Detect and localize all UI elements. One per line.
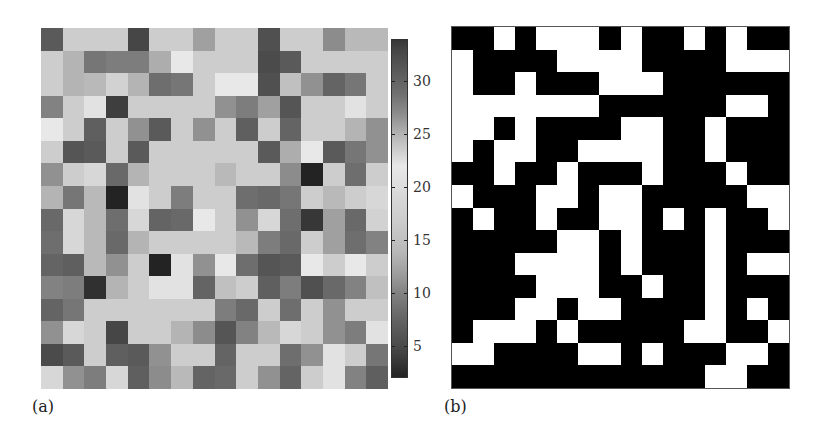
heatmap-cell	[280, 96, 302, 119]
heatmap-cell	[258, 276, 280, 299]
binary-cell	[578, 298, 599, 321]
binary-cell	[473, 72, 494, 95]
heatmap-cell	[63, 73, 85, 96]
heatmap-cell	[258, 344, 280, 367]
binary-cell	[642, 343, 663, 366]
heatmap-cell	[193, 344, 215, 367]
heatmap-cell	[171, 344, 193, 367]
binary-cell	[557, 298, 578, 321]
colorbar-tick-label: 30	[413, 74, 431, 88]
binary-cell	[705, 253, 726, 276]
binary-cell	[642, 320, 663, 343]
binary-cell	[705, 162, 726, 185]
heatmap-cell	[41, 344, 63, 367]
binary-cell	[515, 275, 536, 298]
binary-cell	[642, 27, 663, 50]
heatmap-cell	[128, 141, 150, 164]
panel-b-label: (b)	[444, 397, 467, 416]
heatmap-cell	[106, 141, 128, 164]
heatmap-cell	[345, 73, 367, 96]
heatmap-cell	[366, 299, 388, 322]
heatmap-cell	[258, 96, 280, 119]
heatmap-cell	[63, 276, 85, 299]
binary-cell	[473, 365, 494, 388]
heatmap-cell	[149, 299, 171, 322]
heatmap-cell	[301, 141, 323, 164]
heatmap-cell	[215, 96, 237, 119]
binary-cell	[473, 343, 494, 366]
heatmap-cell	[323, 141, 345, 164]
heatmap-cell	[106, 51, 128, 74]
binary-cell	[515, 140, 536, 163]
heatmap-cell	[280, 231, 302, 254]
binary-cell	[515, 95, 536, 118]
heatmap-cell	[63, 366, 85, 389]
heatmap-cell	[323, 321, 345, 344]
binary-cell	[557, 162, 578, 185]
binary-cell	[663, 275, 684, 298]
heatmap-cell	[236, 276, 258, 299]
binary-cell	[557, 72, 578, 95]
binary-cell	[515, 185, 536, 208]
heatmap-cell	[323, 186, 345, 209]
binary-cell	[768, 298, 789, 321]
binary-cell	[515, 298, 536, 321]
binary-cell	[747, 95, 768, 118]
heatmap-cell	[258, 186, 280, 209]
heatmap-cell	[280, 254, 302, 277]
binary-cell	[642, 275, 663, 298]
binary-cell	[494, 208, 515, 231]
heatmap-cell	[128, 73, 150, 96]
heatmap-cell	[345, 51, 367, 74]
binary-cell	[747, 185, 768, 208]
heatmap-cell	[41, 28, 63, 51]
heatmap-cell	[149, 344, 171, 367]
colorbar-tick	[404, 134, 407, 135]
heatmap-cell	[215, 163, 237, 186]
binary-cell	[747, 343, 768, 366]
binary-cell	[663, 95, 684, 118]
binary-cell	[768, 72, 789, 95]
heatmap-cell	[366, 73, 388, 96]
binary-cell	[578, 140, 599, 163]
binary-cell	[621, 343, 642, 366]
heatmap-cell	[236, 366, 258, 389]
binary-cell	[515, 27, 536, 50]
heatmap-cell	[215, 28, 237, 51]
binary-cell	[621, 50, 642, 73]
binary-cell	[599, 320, 620, 343]
heatmap-cell	[106, 163, 128, 186]
binary-cell	[663, 185, 684, 208]
binary-cell	[747, 72, 768, 95]
binary-cell	[578, 162, 599, 185]
binary-cell	[452, 208, 473, 231]
colorbar-tick-label: 20	[413, 180, 431, 194]
binary-cell	[705, 140, 726, 163]
heatmap-cell	[106, 231, 128, 254]
binary-cell	[536, 117, 557, 140]
heatmap-cell	[366, 28, 388, 51]
heatmap-cell	[236, 51, 258, 74]
binary-cell	[684, 72, 705, 95]
binary-cell	[536, 365, 557, 388]
binary-cell	[599, 95, 620, 118]
binary-cell	[473, 185, 494, 208]
binary-cell	[747, 365, 768, 388]
heatmap-cell	[41, 321, 63, 344]
binary-cell	[726, 95, 747, 118]
heatmap-cell	[345, 186, 367, 209]
binary-cell	[684, 230, 705, 253]
heatmap-cell	[193, 321, 215, 344]
heatmap-cell	[301, 344, 323, 367]
heatmap-cell	[236, 28, 258, 51]
heatmap-cell	[149, 51, 171, 74]
binary-cell	[599, 343, 620, 366]
heatmap-cell	[106, 344, 128, 367]
binary-cell	[494, 253, 515, 276]
binary-cell	[452, 27, 473, 50]
binary-cell	[473, 162, 494, 185]
heatmap-cell	[171, 73, 193, 96]
binary-cell	[536, 230, 557, 253]
heatmap-cell	[366, 186, 388, 209]
heatmap-cell	[280, 276, 302, 299]
